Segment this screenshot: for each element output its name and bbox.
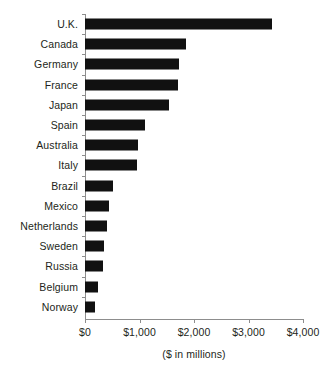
bar-chart: U.K.CanadaGermanyFranceJapanSpainAustral… [0,0,332,373]
bar-row: Australia [85,135,303,155]
y-tick [82,176,86,177]
bar-row: Mexico [85,196,303,216]
x-tick [303,319,304,323]
bar [85,241,104,252]
y-tick [82,155,86,156]
y-tick [82,236,86,237]
x-tick-label: $2,000 [178,326,211,338]
x-tick-label: $4,000 [287,326,320,338]
category-label: Netherlands [20,221,78,232]
y-tick [82,95,86,96]
y-tick [82,75,86,76]
bar-row: Canada [85,34,303,54]
bar-row: Russia [85,256,303,276]
bar [85,160,137,171]
bar [85,140,138,151]
plot-area: U.K.CanadaGermanyFranceJapanSpainAustral… [85,14,303,319]
bar-row: Norway [85,297,303,317]
x-tick-label: $1,000 [123,326,156,338]
y-tick [82,196,86,197]
x-tick [194,319,195,323]
category-label: Sweden [39,241,78,252]
bar [85,221,107,232]
category-label: Spain [51,120,78,131]
x-axis-caption: ($ in millions) [85,348,303,360]
bar-row: Italy [85,155,303,175]
y-tick [82,256,86,257]
category-label: Japan [49,99,78,110]
category-label: U.K. [57,19,78,30]
x-tick-label: $3,000 [232,326,265,338]
category-label: Australia [36,140,78,151]
bar [85,261,103,272]
bar-row: Sweden [85,236,303,256]
category-label: Norway [42,301,78,312]
bar-row: Netherlands [85,216,303,236]
bar [85,99,169,110]
x-tick [85,319,86,323]
bar-row: Japan [85,95,303,115]
category-label: Germany [34,59,78,70]
category-label: Mexico [44,200,78,211]
y-tick [82,297,86,298]
bar [85,180,113,191]
bar [85,39,186,50]
category-label: Russia [45,261,78,272]
bar [85,19,272,30]
y-tick [82,34,86,35]
y-tick [82,14,86,15]
x-tick-label: $0 [79,326,91,338]
bar-row: Germany [85,54,303,74]
bar-row: U.K. [85,14,303,34]
x-tick [249,319,250,323]
bar [85,59,179,70]
bar [85,79,178,90]
bar [85,120,145,131]
bar [85,281,98,292]
y-tick [82,277,86,278]
bar [85,200,109,211]
bar-row: Brazil [85,176,303,196]
category-label: Belgium [39,281,78,292]
bar-row: Belgium [85,277,303,297]
category-label: Canada [41,39,78,50]
x-tick [140,319,141,323]
bar [85,301,95,312]
bar-row: Spain [85,115,303,135]
y-tick [82,216,86,217]
y-tick [82,135,86,136]
y-tick [82,54,86,55]
bar-row: France [85,75,303,95]
category-label: Brazil [51,180,78,191]
category-label: France [45,79,78,90]
y-tick [82,115,86,116]
category-label: Italy [58,160,78,171]
